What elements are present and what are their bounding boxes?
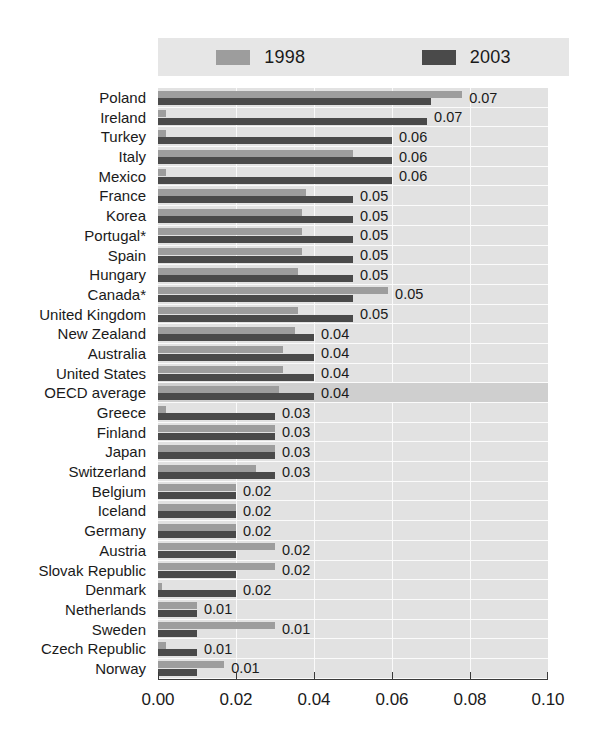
chart-root: 1998 2003 PolandIrelandTurkeyItalyMexico… [0, 0, 602, 742]
bar-value-label: 0.03 [282, 424, 310, 441]
bar-row: 0.04 [158, 324, 548, 344]
bar-2003 [158, 374, 314, 381]
bar-1998 [158, 504, 236, 511]
bar-1998 [158, 307, 298, 314]
bar-value-label: 0.01 [282, 621, 310, 638]
bar-row: 0.05 [158, 285, 548, 305]
bar-value-label: 0.07 [469, 90, 497, 107]
bar-1998 [158, 268, 298, 275]
bar-rows: 0.070.070.060.060.060.050.050.050.050.05… [158, 88, 548, 679]
bar-2003 [158, 137, 392, 144]
legend-label-2003: 2003 [470, 47, 511, 68]
plot-area: 0.070.070.060.060.060.050.050.050.050.05… [158, 88, 548, 679]
bar-1998 [158, 189, 306, 196]
category-label: Slovak Republic [0, 561, 152, 581]
axis-tick [314, 672, 315, 680]
axis-tick [236, 672, 237, 680]
axis-tick [470, 672, 471, 680]
bar-1998 [158, 642, 166, 649]
bar-1998 [158, 445, 275, 452]
bar-2003 [158, 452, 275, 459]
bar-1998 [158, 228, 302, 235]
bar-row: 0.05 [158, 186, 548, 206]
category-label: Japan [0, 442, 152, 462]
bar-2003 [158, 472, 275, 479]
bar-1998 [158, 209, 302, 216]
bar-row: 0.04 [158, 344, 548, 364]
bar-1998 [158, 543, 275, 550]
category-label: New Zealand [0, 324, 152, 344]
axis-end-cap [158, 672, 159, 680]
category-label: France [0, 186, 152, 206]
bar-1998 [158, 465, 256, 472]
bar-row: 0.02 [158, 521, 548, 541]
category-label: Greece [0, 403, 152, 423]
legend-entry-1998: 1998 [216, 47, 305, 68]
bar-2003 [158, 275, 353, 282]
bar-value-label: 0.04 [321, 365, 349, 382]
bar-2003 [158, 334, 314, 341]
value-axis-line [158, 679, 548, 680]
legend-label-1998: 1998 [264, 47, 305, 68]
bar-value-label: 0.05 [360, 208, 388, 225]
bar-2003 [158, 433, 275, 440]
category-label: Korea [0, 206, 152, 226]
bar-1998 [158, 563, 275, 570]
category-label: Norway [0, 659, 152, 679]
bar-2003 [158, 571, 236, 578]
bar-1998 [158, 386, 279, 393]
category-label: Sweden [0, 620, 152, 640]
axis-tick-label: 0.08 [453, 690, 486, 710]
bar-row: 0.01 [158, 659, 548, 679]
bar-2003 [158, 177, 392, 184]
bar-2003 [158, 669, 197, 676]
category-label: Finland [0, 423, 152, 443]
bar-row: 0.06 [158, 127, 548, 147]
bar-value-label: 0.06 [399, 168, 427, 185]
bar-value-label: 0.02 [243, 483, 271, 500]
bar-value-label: 0.05 [360, 267, 388, 284]
legend-swatch-icon-1998 [216, 50, 250, 65]
bar-value-label: 0.06 [399, 129, 427, 146]
bar-value-label: 0.07 [434, 109, 462, 126]
bar-2003 [158, 531, 236, 538]
category-label: OECD average [0, 383, 152, 403]
bar-value-label: 0.02 [243, 503, 271, 520]
bar-1998 [158, 583, 162, 590]
bar-row: 0.05 [158, 226, 548, 246]
bar-row: 0.02 [158, 501, 548, 521]
category-label: Turkey [0, 127, 152, 147]
bar-row: 0.05 [158, 265, 548, 285]
bar-1998 [158, 287, 388, 294]
bar-row: 0.04 [158, 383, 548, 403]
bar-value-label: 0.04 [321, 385, 349, 402]
bar-value-label: 0.02 [243, 582, 271, 599]
bar-row: 0.03 [158, 442, 548, 462]
category-label: Mexico [0, 167, 152, 187]
bar-row: 0.03 [158, 403, 548, 423]
bar-2003 [158, 610, 197, 617]
bar-1998 [158, 524, 236, 531]
bar-value-label: 0.05 [360, 247, 388, 264]
bar-row: 0.02 [158, 580, 548, 600]
legend-swatch-icon-2003 [422, 50, 456, 65]
bar-2003 [158, 649, 197, 656]
bar-1998 [158, 327, 295, 334]
bar-1998 [158, 150, 353, 157]
category-label: Spain [0, 246, 152, 266]
bar-value-label: 0.04 [321, 326, 349, 343]
bar-2003 [158, 256, 353, 263]
bar-2003 [158, 590, 236, 597]
category-axis-labels: PolandIrelandTurkeyItalyMexicoFranceKore… [0, 88, 152, 679]
category-label: United States [0, 364, 152, 384]
category-label: Netherlands [0, 600, 152, 620]
bar-value-label: 0.02 [282, 542, 310, 559]
bar-row: 0.04 [158, 364, 548, 384]
bar-1998 [158, 425, 275, 432]
bar-value-label: 0.03 [282, 444, 310, 461]
bar-2003 [158, 118, 427, 125]
category-label: Belgium [0, 482, 152, 502]
bar-value-label: 0.03 [282, 464, 310, 481]
bar-value-label: 0.04 [321, 345, 349, 362]
axis-tick-label: 0.02 [219, 690, 252, 710]
